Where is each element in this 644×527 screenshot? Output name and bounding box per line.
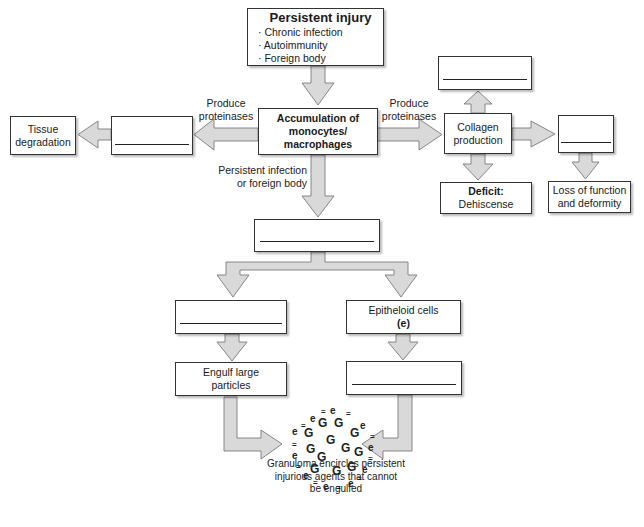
arrow-injury-to-accumulation	[302, 66, 334, 105]
giant-cell-icon: G	[341, 442, 350, 454]
giant-cell-icon: G	[326, 434, 335, 446]
arrow-left-blank-to-tissue	[78, 121, 111, 148]
giant-cell-icon: G	[334, 417, 343, 429]
collagen-line: Collagen	[457, 121, 498, 134]
epitheloid-cell-icon: e	[330, 406, 336, 416]
arrow-epitheloid-to-right-blank	[388, 334, 418, 360]
deficit-box: Deficit: Dehiscense	[440, 182, 532, 214]
giant-cell-icon: G	[318, 417, 327, 429]
blank-answer-line	[260, 241, 374, 242]
ring-separator-icon: =	[346, 410, 351, 418]
left-blank-box	[111, 116, 193, 155]
arrow-collagen-to-deficit	[463, 154, 493, 180]
accumulation-box: Accumulation of monocytes/ macrophages	[258, 108, 378, 155]
persistent-infection-label: Persistent infection or foreign body	[206, 164, 307, 190]
arrow-collagen-to-right-blank	[512, 121, 555, 147]
ring-separator-icon: =	[370, 433, 375, 441]
accumulation-line: monocytes/	[289, 125, 347, 138]
arrow-collagen-to-top-blank	[464, 91, 492, 113]
ring-separator-icon: =	[292, 441, 297, 449]
bullet-item: · Chronic infection	[258, 26, 343, 39]
tissue-line: degradation	[15, 136, 70, 149]
arrow-accumulation-to-left-blank	[194, 119, 258, 150]
bullet-item: · Foreign body	[258, 52, 343, 65]
collagen-right-blank-box	[558, 115, 614, 153]
epitheloid-line: Epitheloid cells	[368, 304, 438, 317]
epitheloid-cell-icon: e	[368, 443, 374, 453]
granuloma-caption: Granuloma encircles persistent injurious…	[226, 458, 446, 496]
deficit-title: Deficit:	[468, 185, 504, 198]
collagen-line: production	[453, 134, 502, 147]
ring-separator-icon: =	[301, 422, 306, 430]
blank-answer-line	[180, 323, 281, 324]
giant-cell-icon: G	[306, 443, 315, 455]
ring-separator-icon: =	[321, 408, 326, 416]
blank-answer-line	[352, 384, 457, 385]
engulf-line: particles	[211, 379, 250, 392]
deficit-text: Dehiscense	[459, 198, 514, 211]
loss-line: Loss of function	[553, 184, 627, 197]
epitheloid-cell-icon: e	[292, 427, 298, 437]
engulf-particles-box: Engulf large particles	[175, 362, 287, 396]
middle-blank-box	[254, 219, 380, 252]
arrow-engulf-to-granuloma	[224, 397, 282, 459]
tissue-degradation-box: Tissue degradation	[10, 116, 76, 155]
arrow-accumulation-to-collagen	[377, 119, 442, 150]
persistent-injury-box: Persistent injury · Chronic infection · …	[247, 8, 384, 66]
right-proteinases-label: Produce proteinases	[379, 97, 439, 123]
arrow-left-blank-to-engulf	[217, 334, 247, 361]
epitheloid-cell-icon: e	[310, 414, 316, 424]
accumulation-line: macrophages	[284, 138, 352, 151]
blank-answer-line	[115, 144, 189, 145]
bullet-item: · Autoimmunity	[258, 39, 343, 52]
accumulation-line: Accumulation of	[277, 112, 359, 125]
giant-cell-icon: G	[350, 427, 359, 439]
left-branch-blank-box	[175, 300, 287, 334]
engulf-line: Engulf large	[203, 366, 259, 379]
right-branch-blank-box	[346, 361, 462, 395]
giant-cell-icon: G	[354, 446, 363, 458]
loss-of-function-box: Loss of function and deformity	[548, 181, 631, 213]
epitheloid-cells-box: Epitheloid cells (e)	[346, 300, 461, 334]
left-proteinases-label: Produce proteinases	[196, 97, 256, 123]
collagen-production-box: Collagen production	[444, 113, 512, 154]
blank-answer-line	[561, 142, 611, 143]
epitheloid-symbol: (e)	[397, 317, 410, 330]
persistent-injury-bullets: · Chronic infection · Autoimmunity · For…	[258, 26, 343, 65]
loss-line: and deformity	[558, 197, 622, 210]
epitheloid-cell-icon: e	[360, 421, 366, 431]
blank-answer-line	[443, 79, 528, 80]
persistent-injury-title: Persistent injury	[270, 10, 372, 26]
arrow-split-branches	[217, 252, 417, 297]
collagen-top-blank-box	[438, 56, 532, 90]
tissue-line: Tissue	[28, 123, 59, 136]
arrow-right-blank-to-loss	[572, 153, 599, 179]
